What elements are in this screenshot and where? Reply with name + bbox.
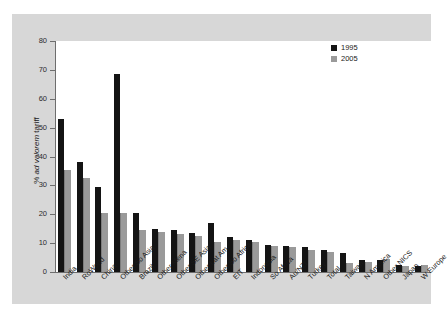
y-axis-tick	[50, 243, 55, 244]
bar-group	[243, 41, 262, 272]
bar-group	[205, 41, 224, 272]
y-axis-tick	[50, 70, 55, 71]
y-axis-tick-label: 0	[26, 267, 47, 276]
bar-2005	[120, 213, 127, 272]
y-axis-tick	[50, 185, 55, 186]
bar-group	[337, 41, 356, 272]
y-axis-tick	[50, 272, 55, 273]
bar-group	[356, 41, 375, 272]
legend-swatch-1995-icon	[331, 45, 337, 51]
y-axis-tick-label: 10	[26, 238, 47, 247]
y-axis-title-percent: %	[32, 177, 41, 184]
y-axis-tick-label: 20	[26, 209, 47, 218]
plot-canvas	[55, 41, 431, 272]
y-axis-tick	[50, 41, 55, 42]
bar-group	[149, 41, 168, 272]
bars-container	[55, 41, 431, 272]
bar-group	[281, 41, 300, 272]
legend-item: 2005	[331, 53, 358, 64]
bar-group	[111, 41, 130, 272]
bar-group	[55, 41, 74, 272]
bar-group	[93, 41, 112, 272]
y-axis-tick-label: 70	[26, 65, 47, 74]
bar-group	[74, 41, 93, 272]
bar-group	[318, 41, 337, 272]
bar-group	[393, 41, 412, 272]
legend: 1995 2005	[331, 42, 358, 64]
bar-group	[187, 41, 206, 272]
bar-group	[262, 41, 281, 272]
bar-group	[224, 41, 243, 272]
y-axis-title: % ad valorem tariff	[32, 91, 41, 211]
bar-group	[299, 41, 318, 272]
y-axis-line	[55, 41, 56, 272]
y-axis-tick	[50, 157, 55, 158]
legend-swatch-2005-icon	[331, 56, 337, 62]
y-axis-title-italic: ad valorem	[32, 135, 41, 175]
legend-item: 1995	[331, 42, 358, 53]
bar-group	[168, 41, 187, 272]
bar-2005	[64, 170, 71, 273]
y-axis-tick-label: 80	[26, 36, 47, 45]
bar-group	[375, 41, 394, 272]
legend-label-2005: 2005	[341, 54, 358, 63]
legend-label-1995: 1995	[341, 43, 358, 52]
y-axis-title-tail: tariff	[32, 117, 41, 132]
y-axis-tick	[50, 128, 55, 129]
y-axis-tick	[50, 99, 55, 100]
bar-group	[412, 41, 431, 272]
bar-group	[130, 41, 149, 272]
y-axis-tick	[50, 214, 55, 215]
bar-2005	[83, 178, 90, 272]
figure-panel: 01020304050607080 % ad valorem tariff In…	[12, 14, 431, 304]
